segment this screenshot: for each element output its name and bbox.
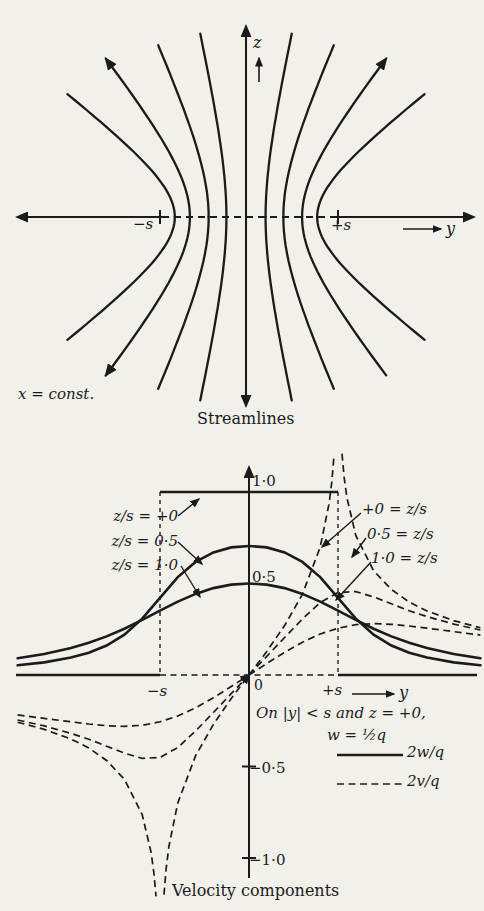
condition-note-line1: On |y| < s and z = +0, bbox=[256, 705, 426, 722]
curve-label-v-z10: 1·0 = z/s bbox=[371, 550, 438, 567]
figure-page: z −s +s y x = const. Streamlines 1·0 0·5… bbox=[0, 0, 484, 911]
xtick-minus-s: −s bbox=[147, 683, 167, 700]
minus-s-tick-label: −s bbox=[133, 216, 153, 233]
xtick-plus-s: +s bbox=[322, 682, 342, 699]
legend-dashed-label: 2v/q bbox=[407, 773, 440, 790]
curve-label-v-z0: +0 = z/s bbox=[362, 501, 427, 518]
z-axis-label: z bbox=[253, 34, 261, 52]
curve-label-w-z05: z/s = 0·5 bbox=[111, 533, 178, 550]
curve-label-w-z0: z/s = +0 bbox=[113, 508, 178, 525]
ytick-m0-5: −0·5 bbox=[249, 760, 285, 777]
y-axis-label-bottom: y bbox=[399, 684, 408, 702]
plane-note: x = const. bbox=[18, 386, 94, 403]
origin-label: 0 bbox=[254, 678, 263, 693]
ytick-0-5: 0·5 bbox=[252, 569, 276, 586]
condition-note-line2: w = ½q bbox=[327, 727, 386, 744]
curve-label-w-z10: z/s = 1·0 bbox=[111, 557, 178, 574]
y-axis-label-top: y bbox=[446, 220, 455, 238]
streamlines-caption: Streamlines bbox=[197, 410, 294, 428]
curve-label-v-z05: 0·5 = z/s bbox=[367, 526, 434, 543]
velocity-plot bbox=[16, 454, 480, 897]
legend-solid-label: 2w/q bbox=[407, 744, 444, 761]
ytick-1-0: 1·0 bbox=[252, 473, 276, 490]
ytick-m1-0: −1·0 bbox=[249, 852, 285, 869]
plus-s-tick-label: +s bbox=[331, 217, 351, 234]
streamlines-plot bbox=[17, 26, 474, 406]
velocity-caption: Velocity components bbox=[172, 882, 339, 900]
